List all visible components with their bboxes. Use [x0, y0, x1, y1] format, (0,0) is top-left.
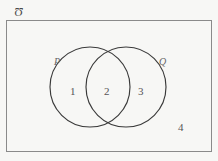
venn-diagram-svg [0, 0, 218, 161]
region-label-p-and-q: 2 [104, 86, 110, 97]
universal-set-label-text: Ʊ [14, 6, 23, 18]
set-q-circle [86, 47, 166, 127]
set-p-circle [50, 47, 130, 127]
set-q-label: Q [159, 57, 166, 67]
set-p-label: P [54, 57, 60, 67]
venn-diagram-figure: Ʊ P Q 1 2 3 4 [0, 0, 218, 161]
region-label-p-only: 1 [70, 86, 76, 97]
region-label-q-only: 3 [138, 86, 144, 97]
universal-set-label: Ʊ [14, 6, 23, 18]
region-label-outside: 4 [178, 122, 184, 133]
